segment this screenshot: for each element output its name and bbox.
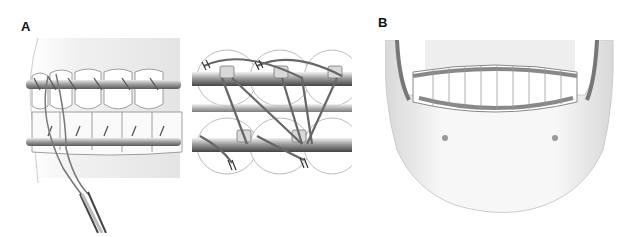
panel-a-closeup-illustration <box>192 48 352 178</box>
panel-label-a: A <box>21 19 30 34</box>
panel-a-lateral-illustration <box>18 38 183 233</box>
panel-label-b: B <box>378 15 387 30</box>
panel-b-mandible-illustration <box>385 40 615 220</box>
